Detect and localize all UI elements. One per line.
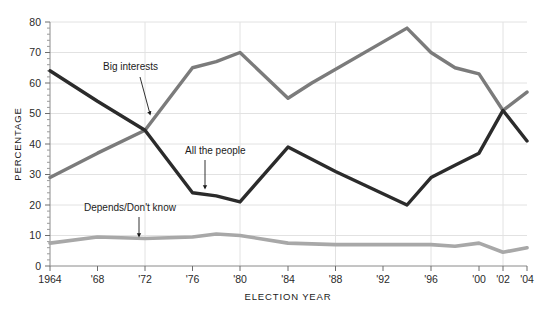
- y-tick-label-0: 0: [35, 260, 41, 272]
- y-tick-label-group: 01020304050607080: [29, 16, 41, 272]
- y-tick-label-20: 20: [29, 199, 41, 211]
- y-axis-title: PERCENTAGE: [12, 107, 23, 180]
- chart-background: [0, 0, 545, 311]
- y-tick-label-50: 50: [29, 107, 41, 119]
- chart-container: 01020304050607080 1964'68'72'76'80'84'88…: [0, 0, 545, 311]
- y-tick-label-30: 30: [29, 168, 41, 180]
- x-axis-title: ELECTION YEAR: [245, 291, 332, 302]
- x-tick-label-1968: '68: [91, 273, 105, 285]
- x-tick-label-1988: '88: [329, 273, 343, 285]
- y-tick-label-80: 80: [29, 16, 41, 28]
- x-tick-label-1992: '92: [376, 273, 390, 285]
- y-tick-label-60: 60: [29, 77, 41, 89]
- annotation-label-all-the-people: All the people: [185, 145, 246, 156]
- x-tick-label-2004: '04: [520, 273, 534, 285]
- y-tick-label-10: 10: [29, 229, 41, 241]
- y-tick-label-40: 40: [29, 138, 41, 150]
- annotation-label-big-interests: Big interests: [103, 61, 158, 72]
- x-tick-label-1972: '72: [138, 273, 152, 285]
- x-tick-label-1996: '96: [424, 273, 438, 285]
- line-chart: 01020304050607080 1964'68'72'76'80'84'88…: [0, 0, 545, 311]
- y-tick-label-70: 70: [29, 46, 41, 58]
- x-tick-label-1984: '84: [281, 273, 295, 285]
- x-tick-label-1976: '76: [186, 273, 200, 285]
- annotation-label-depends-don-t-know: Depends/Don't know: [84, 202, 177, 213]
- x-tick-label-2000: '00: [472, 273, 486, 285]
- x-tick-label-1964: 1964: [38, 273, 62, 285]
- x-tick-label-1980: '80: [233, 273, 247, 285]
- x-tick-label-2002: '02: [496, 273, 510, 285]
